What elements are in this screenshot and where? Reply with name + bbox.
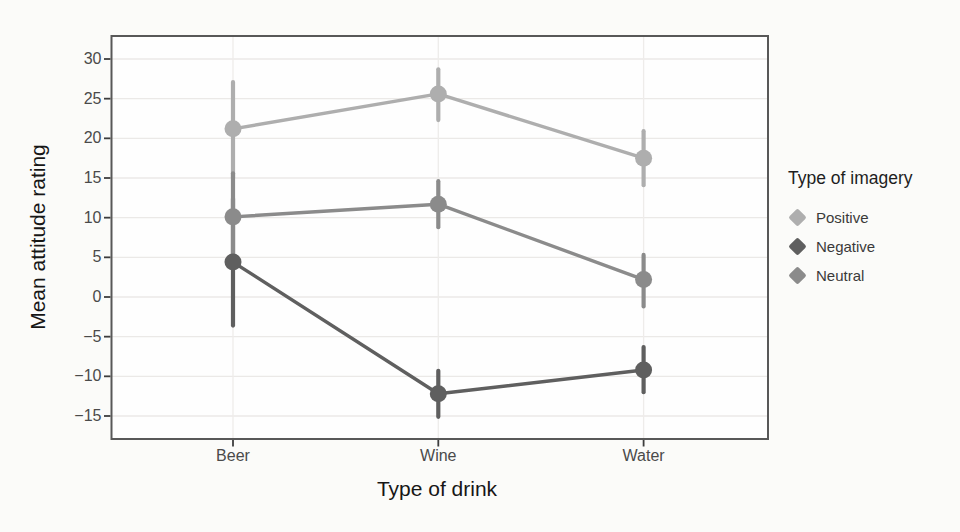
point-negative-beer xyxy=(225,254,242,271)
y-tick-label: −5 xyxy=(83,328,101,346)
legend-item-neutral: Neutral xyxy=(788,261,913,290)
x-tick-label: Wine xyxy=(393,447,483,465)
y-tick-label: 25 xyxy=(84,90,102,108)
y-tick-label: 15 xyxy=(84,169,102,187)
point-positive-wine xyxy=(430,85,447,102)
x-tick-label: Water xyxy=(599,447,689,465)
y-tick-label: 5 xyxy=(93,248,102,266)
point-positive-beer xyxy=(225,120,242,137)
point-neutral-wine xyxy=(430,196,447,213)
point-positive-water xyxy=(635,150,652,167)
neutral-marker-icon xyxy=(788,266,806,284)
y-tick-label: 10 xyxy=(84,209,102,227)
legend-item-positive: Positive xyxy=(788,203,913,232)
legend: Type of imagery PositiveNegativeNeutral xyxy=(788,168,913,290)
legend-item-negative: Negative xyxy=(788,232,913,261)
legend-item-label: Positive xyxy=(816,209,869,226)
point-neutral-beer xyxy=(225,208,242,225)
y-axis-title: Mean attitude rating xyxy=(26,144,50,330)
point-negative-water xyxy=(635,361,652,378)
y-tick-label: 20 xyxy=(84,129,102,147)
x-axis-title: Type of drink xyxy=(377,477,497,501)
figure: Mean attitude rating Type of drink 30252… xyxy=(0,0,960,532)
legend-items: PositiveNegativeNeutral xyxy=(788,203,913,290)
point-negative-wine xyxy=(430,385,447,402)
negative-marker-icon xyxy=(788,237,806,255)
legend-title: Type of imagery xyxy=(788,168,913,189)
positive-marker-icon xyxy=(788,208,806,226)
point-neutral-water xyxy=(635,271,652,288)
legend-item-label: Negative xyxy=(816,238,875,255)
x-tick-label: Beer xyxy=(188,447,278,465)
legend-item-label: Neutral xyxy=(816,267,864,284)
y-tick-label: 0 xyxy=(93,288,102,306)
y-tick-label: 30 xyxy=(84,50,102,68)
y-tick-label: −10 xyxy=(74,367,101,385)
y-tick-label: −15 xyxy=(74,407,101,425)
